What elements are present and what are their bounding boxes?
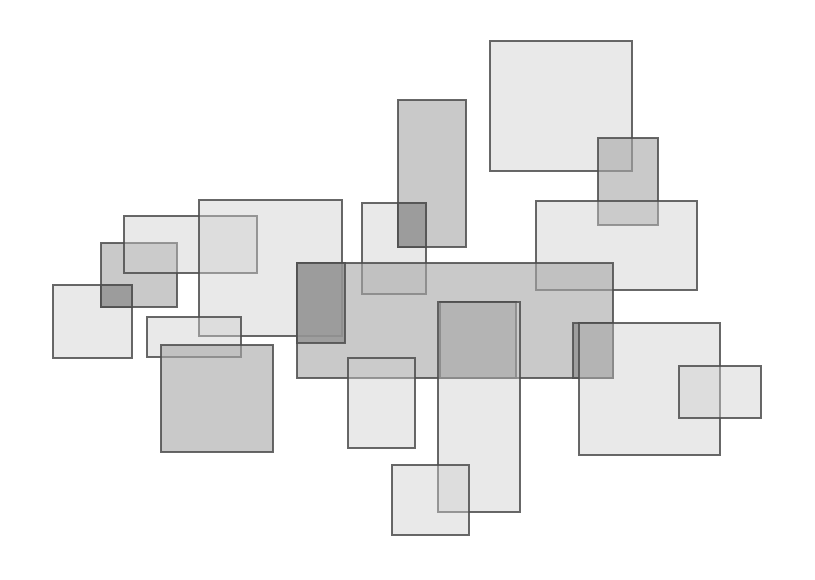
far-right-small-light-rect (679, 366, 761, 418)
left-overlap-dark-square (101, 285, 132, 307)
figure-canvas (0, 0, 815, 580)
central-left-dark-rect (297, 263, 345, 343)
bottom-light-square (392, 465, 469, 535)
lower-mid-small-light-rect (348, 358, 415, 448)
lower-left-medium-square (161, 345, 273, 452)
upper-mid-overlap-medium-rect (398, 203, 426, 247)
overlapping-rectangles-figure (0, 0, 815, 580)
